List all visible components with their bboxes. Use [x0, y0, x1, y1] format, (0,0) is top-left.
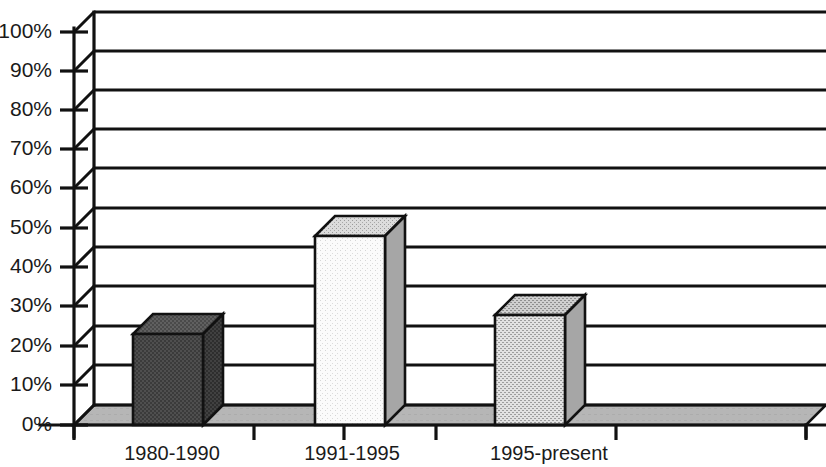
y-axis-label-40: 40%: [10, 254, 52, 277]
y-axis-label-0: 0%: [22, 412, 52, 435]
y-axis-label-20: 20%: [10, 333, 52, 356]
bar-1995-present[interactable]: [495, 295, 585, 425]
y-axis-label-70: 70%: [10, 136, 52, 159]
y-axis-label-100: 100%: [0, 19, 52, 42]
depth-connectors: [74, 12, 94, 425]
depth-connector-30: [74, 286, 94, 306]
x-axis-label-1991-1995: 1991-1995: [304, 442, 400, 464]
y-axis-label-90: 90%: [10, 58, 52, 81]
x-axis-label-1995-present: 1995-present: [490, 442, 608, 464]
bar-1980-1990[interactable]: [133, 314, 223, 425]
bar-1980-1990-side: [203, 314, 223, 425]
depth-connector-60: [74, 168, 94, 188]
x-axis-ticks: [74, 425, 806, 440]
y-axis-label-50: 50%: [10, 215, 52, 238]
plot-area: [74, 12, 826, 437]
depth-connector-100: [74, 12, 94, 32]
bar-1991-1995-side: [385, 216, 405, 425]
y-axis-labels: 100% 90% 80% 70% 60% 50% 40% 30% 20% 10%…: [0, 19, 52, 435]
bar-1991-1995-front: [315, 236, 385, 425]
y-axis-label-30: 30%: [10, 293, 52, 316]
bar-1980-1990-front: [133, 334, 203, 425]
chart-container: 100% 90% 80% 70% 60% 50% 40% 30% 20% 10%…: [0, 0, 826, 467]
bar-1991-1995[interactable]: [315, 216, 405, 425]
depth-connector-40: [74, 247, 94, 267]
depth-connector-10: [74, 365, 94, 385]
column-chart-3d: 100% 90% 80% 70% 60% 50% 40% 30% 20% 10%…: [0, 0, 826, 467]
x-axis-labels: 1980-1990 1991-1995 1995-present: [124, 442, 608, 464]
depth-connector-50: [74, 208, 94, 228]
depth-connector-20: [74, 326, 94, 346]
x-axis-label-1980-1990: 1980-1990: [124, 442, 220, 464]
y-axis-label-80: 80%: [10, 97, 52, 120]
bar-1995-present-side: [565, 295, 585, 425]
depth-connector-90: [74, 51, 94, 71]
depth-connector-80: [74, 90, 94, 110]
y-axis-label-10: 10%: [10, 372, 52, 395]
depth-connector-70: [74, 129, 94, 149]
bar-1995-present-front: [495, 315, 565, 425]
y-axis-label-60: 60%: [10, 175, 52, 198]
